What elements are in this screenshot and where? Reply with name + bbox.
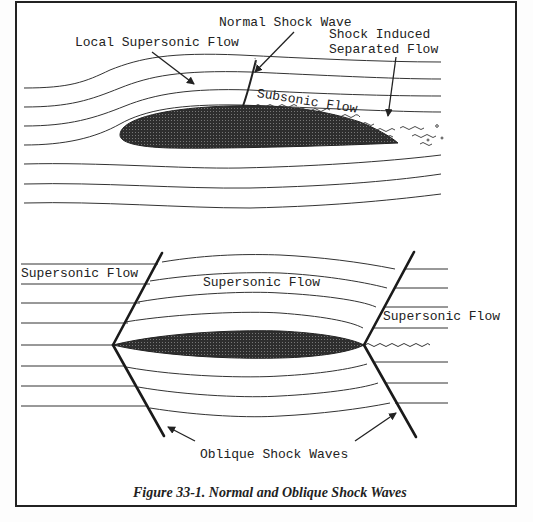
bottom-airfoil <box>113 331 364 359</box>
arrow-oblique-left <box>168 427 195 441</box>
bottom-left-streamlines <box>21 264 158 406</box>
arrow-separated-flow <box>388 57 396 116</box>
label-supersonic-flow-left: Supersonic Flow <box>21 267 138 280</box>
arrow-local-supersonic <box>152 52 194 84</box>
wake-squiggle <box>365 344 430 347</box>
label-oblique-shock-waves: Oblique Shock Waves <box>200 448 348 461</box>
bottom-right-streamlines <box>372 269 448 403</box>
label-separated-flow: Separated Flow <box>329 43 438 56</box>
label-supersonic-flow-center: Supersonic Flow <box>203 276 320 289</box>
label-shock-induced: Shock Induced <box>329 28 430 41</box>
label-supersonic-flow-right: Supersonic Flow <box>383 310 500 323</box>
label-local-supersonic-flow: Local Supersonic Flow <box>75 36 239 49</box>
arrow-normal-shock <box>255 32 294 72</box>
shock-wave-diagram <box>0 0 533 522</box>
normal-shock-line <box>243 60 256 106</box>
figure-caption: Figure 33-1. Normal and Oblique Shock Wa… <box>133 485 407 501</box>
arrow-oblique-right <box>355 413 396 441</box>
